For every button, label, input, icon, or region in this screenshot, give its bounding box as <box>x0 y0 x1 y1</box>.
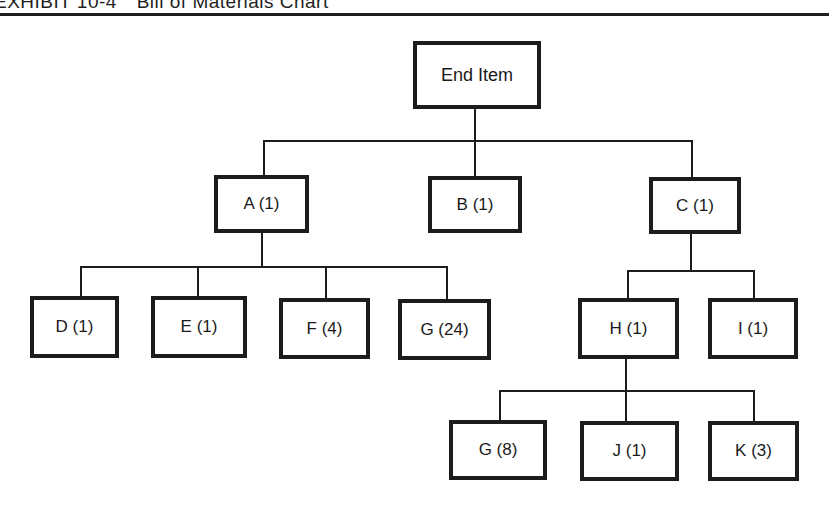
node-f: F (4) <box>279 298 370 359</box>
exhibit-title: EXHIBIT 10-4 Bill of Materials Chart <box>0 0 329 13</box>
connector-to-g8 <box>499 390 501 421</box>
connector-h-children-bar <box>499 390 755 392</box>
connector-to-d <box>80 266 82 297</box>
connector-root-down <box>474 108 476 142</box>
exhibit-number: EXHIBIT 10-4 <box>0 0 117 12</box>
connector-to-i <box>753 270 755 299</box>
node-a: A (1) <box>214 175 309 233</box>
node-k: K (3) <box>708 421 799 481</box>
connector-c-down <box>690 232 692 271</box>
header-rule <box>0 13 829 16</box>
node-d: D (1) <box>30 296 119 358</box>
node-end-item: End Item <box>413 41 541 109</box>
connector-to-f <box>325 266 327 299</box>
connector-to-g24 <box>446 266 448 300</box>
connector-to-a <box>263 140 265 176</box>
connector-to-b <box>474 140 476 177</box>
exhibit-title-text: Bill of Materials Chart <box>137 0 329 12</box>
node-e: E (1) <box>151 296 247 358</box>
connector-to-e <box>197 266 199 297</box>
node-j: J (1) <box>580 421 679 481</box>
connector-c-children-bar <box>627 270 755 272</box>
connector-to-h <box>627 270 629 299</box>
connector-level1-bar <box>263 140 693 142</box>
connector-a-down <box>261 231 263 268</box>
node-i: I (1) <box>708 298 798 359</box>
node-g8: G (8) <box>449 420 547 480</box>
connector-h-down <box>625 357 627 392</box>
exhibit-header: EXHIBIT 10-4 Bill of Materials Chart <box>0 0 829 11</box>
node-c: C (1) <box>649 177 741 234</box>
node-g24: G (24) <box>398 299 491 360</box>
connector-to-j <box>625 390 627 422</box>
connector-to-c <box>691 140 693 178</box>
node-h: H (1) <box>578 298 679 359</box>
connector-a-children-bar <box>80 266 448 268</box>
node-b: B (1) <box>428 176 522 233</box>
connector-to-k <box>753 390 755 422</box>
